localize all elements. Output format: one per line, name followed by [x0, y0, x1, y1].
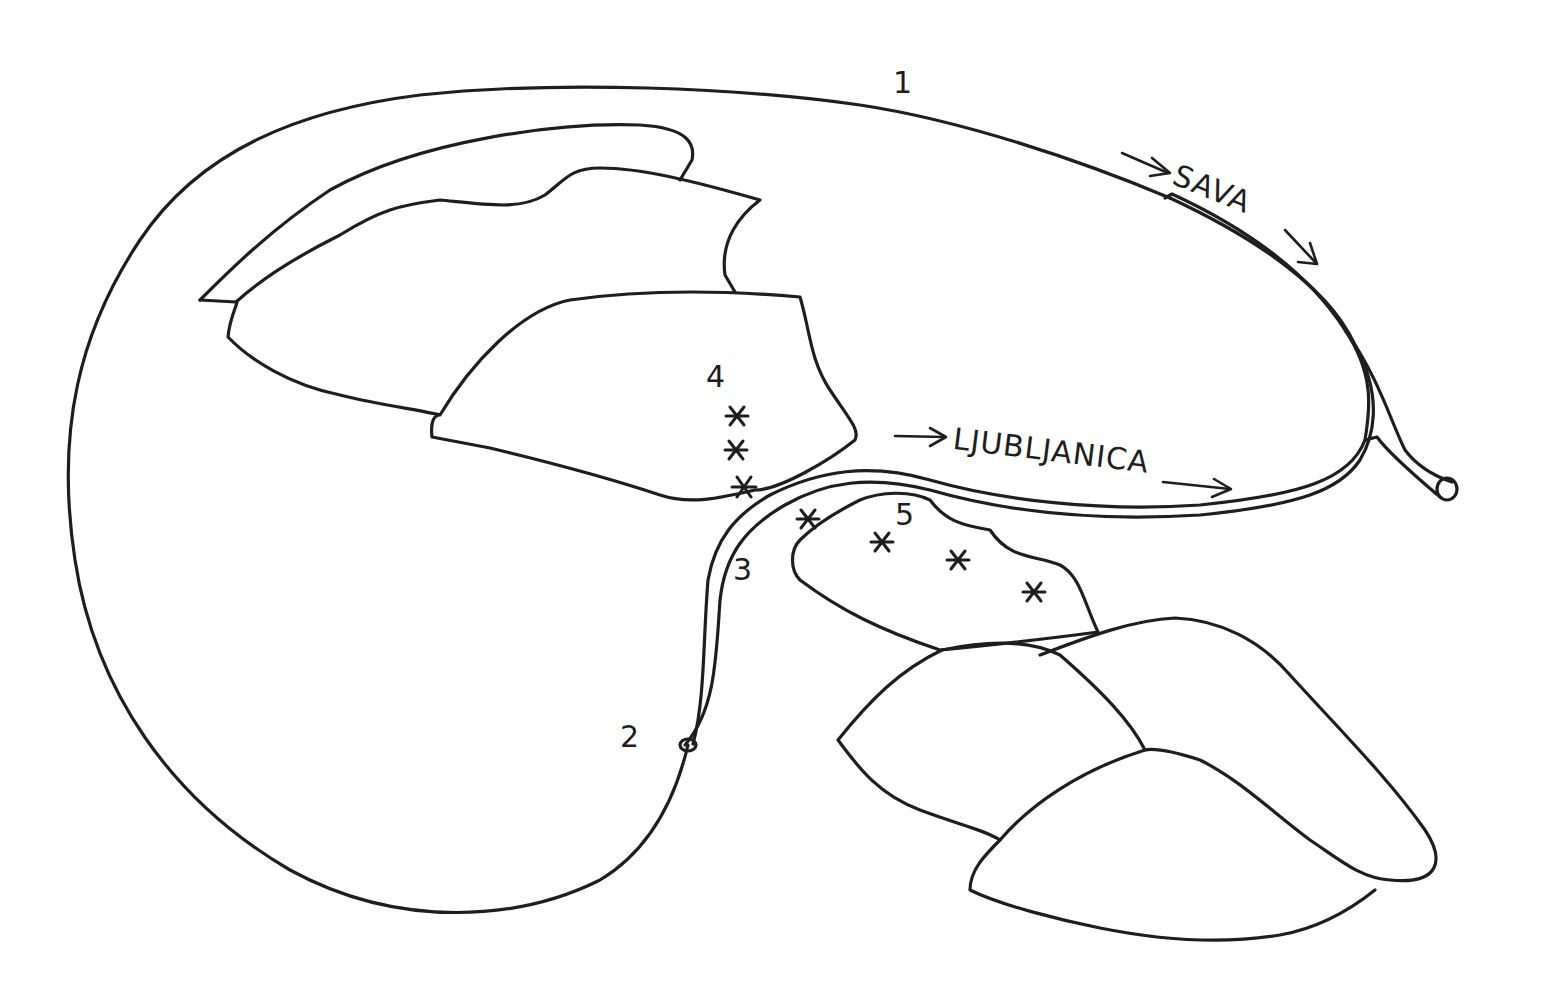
sava-arrow-out	[1285, 230, 1317, 264]
ljubljanica-outer	[685, 198, 1373, 745]
hill-lower-2	[1040, 618, 1436, 881]
hill-5	[793, 493, 1099, 650]
hill-lower-3	[970, 840, 1375, 940]
outer-boundary	[68, 87, 1170, 912]
label-3: 3	[733, 555, 752, 585]
ljubljanica-arrow-out	[1163, 479, 1231, 497]
marker-group-4	[725, 407, 756, 497]
label-1: 1	[893, 68, 912, 98]
hill-lower-1	[838, 643, 1145, 840]
label-2: 2	[620, 722, 639, 752]
sava-inner	[693, 194, 1369, 744]
hill-upper-2	[200, 168, 760, 302]
diagram-canvas: 1 2 3 4 5 SAVA LJUBLJANICA	[0, 0, 1542, 1006]
hill-upper-3	[228, 292, 856, 500]
ljubljanica-arrow-in	[895, 428, 946, 446]
marker-group-5	[797, 510, 1045, 601]
diagram-drawing	[0, 0, 1542, 1006]
label-4: 4	[706, 362, 725, 392]
label-5: 5	[895, 500, 914, 530]
sava-arrow-in	[1122, 153, 1170, 176]
